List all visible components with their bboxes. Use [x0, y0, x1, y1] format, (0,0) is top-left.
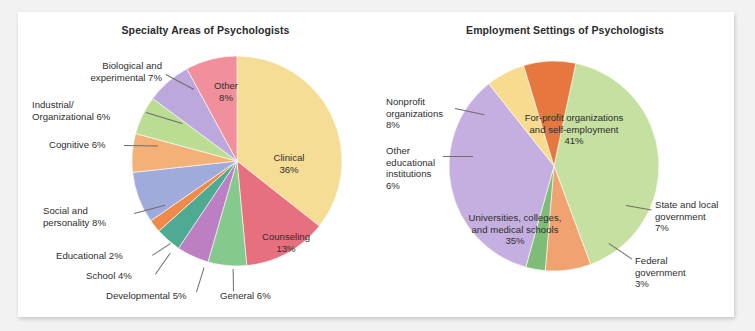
callout-label-nonprofit: Nonprofit organizations 8%: [386, 96, 464, 131]
slice-label-clinical: Clinical 36%: [251, 152, 327, 175]
slice-label-other: Other 8%: [199, 80, 253, 103]
leader-line-other-educational: [443, 156, 473, 157]
slice-label-counseling: Counseling 13%: [244, 231, 328, 254]
chart-specialty-areas: Specialty Areas of Psychologists Clinica…: [18, 12, 393, 317]
slice-label-for-profit: For-profit organizations and self-employ…: [506, 112, 642, 147]
chart-title-employment-settings: Employment Settings of Psychologists: [415, 24, 715, 36]
callout-label-biological-experimental: Biological and experimental 7%: [50, 60, 162, 83]
callout-label-general: General 6%: [220, 290, 296, 302]
callout-label-federal: Federal government 3%: [635, 255, 715, 290]
callout-label-social-personality: Social and personality 8%: [43, 205, 135, 228]
callout-label-industrial-organizational: Industrial/ Organizational 6%: [32, 99, 152, 122]
content-panel: Specialty Areas of Psychologists Clinica…: [18, 12, 734, 317]
leader-line-general: [233, 269, 234, 291]
callout-label-school: School 4%: [86, 270, 156, 282]
chart-employment-settings: Employment Settings of Psychologists For…: [393, 12, 734, 317]
callout-label-state-local: State and local government 7%: [655, 199, 739, 234]
leader-line-developmental: [196, 267, 205, 292]
callout-label-educational: Educational 2%: [56, 250, 152, 262]
figure-root: Specialty Areas of Psychologists Clinica…: [0, 0, 755, 331]
slice-label-universities: Universities, colleges, and medical scho…: [450, 212, 580, 247]
callout-label-other-educational: Other educational institutions 6%: [386, 145, 456, 191]
chart-title-specialty-areas: Specialty Areas of Psychologists: [18, 24, 393, 36]
